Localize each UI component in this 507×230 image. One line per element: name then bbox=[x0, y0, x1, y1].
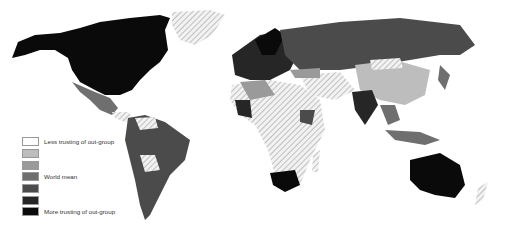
legend-item-level-3 bbox=[22, 159, 115, 171]
region-mongolia bbox=[370, 58, 403, 70]
region-south-africa bbox=[270, 170, 300, 192]
legend-swatch bbox=[22, 137, 39, 146]
legend-item-level-5 bbox=[22, 183, 115, 195]
map-legend: Less trusting of out-group World mean Mo… bbox=[22, 136, 115, 218]
region-greenland bbox=[172, 10, 225, 45]
region-indonesia bbox=[385, 130, 440, 145]
legend-label: More trusting of out-group bbox=[44, 208, 115, 215]
region-alaska-canada-usa bbox=[12, 15, 170, 95]
legend-swatch bbox=[22, 196, 39, 205]
legend-item-level-2 bbox=[22, 148, 115, 160]
legend-swatch bbox=[22, 172, 39, 181]
legend-item-level-6 bbox=[22, 194, 115, 206]
legend-label: World mean bbox=[44, 173, 77, 180]
legend-swatch bbox=[22, 149, 39, 158]
region-mali bbox=[235, 100, 252, 118]
legend-label: Less trusting of out-group bbox=[44, 138, 114, 145]
legend-swatch bbox=[22, 207, 39, 216]
legend-swatch bbox=[22, 161, 39, 170]
region-australia bbox=[410, 153, 465, 198]
legend-item-world-mean: World mean bbox=[22, 171, 115, 183]
legend-item-more-trusting: More trusting of out-group bbox=[22, 206, 115, 218]
region-new-zealand bbox=[475, 182, 488, 205]
region-turkey bbox=[290, 68, 320, 78]
region-japan bbox=[438, 65, 450, 90]
legend-swatch bbox=[22, 184, 39, 193]
legend-item-less-trusting: Less trusting of out-group bbox=[22, 136, 115, 148]
region-southeast-asia bbox=[380, 105, 400, 125]
